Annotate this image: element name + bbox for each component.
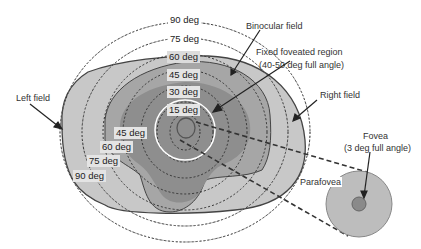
fovea-sublabel: (3 deg full angle) [344,143,411,153]
left-field-label: Left field [16,93,50,103]
visual-field-diagram: 90 deg 75 deg 60 deg 45 deg 30 deg 15 de… [0,0,421,249]
right-field-label: Right field [320,90,360,100]
ring-label-30-upper: 30 deg [167,86,200,98]
ring-label-75-lower: 75 deg [87,155,120,167]
ring-label-45-lower: 45 deg [114,127,147,139]
ring-label-60-upper: 60 deg [167,51,200,63]
fovea-label: Fovea [363,131,388,141]
ring-label-90-upper: 90 deg [168,14,201,26]
diagram-canvas [0,0,421,249]
ring-label-60-lower: 60 deg [100,141,133,153]
ring-label-15-upper: 15 deg [167,104,200,116]
ring-label-90-lower: 90 deg [73,170,106,182]
parafovea-label: Parafovea [299,177,342,187]
ring-label-75-upper: 75 deg [168,33,201,45]
fixed-region-title: Fixed foveated region [256,47,343,57]
ring-label-45-upper: 45 deg [167,69,200,81]
binocular-field-label: Binocular field [246,21,303,31]
fixed-region-subtitle: (40-50 deg full angle) [259,60,344,70]
